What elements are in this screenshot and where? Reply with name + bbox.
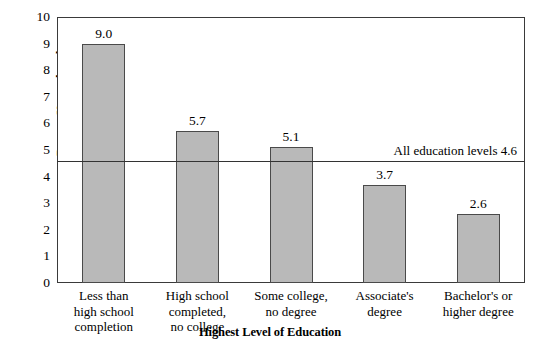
reference-line-label: All education levels 4.6 [255,144,517,157]
reference-line [57,161,525,162]
y-tick-label: 4 [28,170,50,184]
bar [270,147,313,283]
x-category-label: Bachelor's or higher degree [431,288,525,319]
y-tick-label: 10 [28,10,50,24]
bar [363,185,406,283]
bar-value-label: 3.7 [355,168,415,182]
bar-value-label: 2.6 [448,197,508,211]
y-tick-label: 3 [28,196,50,210]
bar [176,131,219,283]
x-category-label: Some college, no degree [244,288,338,319]
bar [457,214,500,283]
y-tick-label: 9 [28,37,50,51]
bar-value-label: 9.0 [74,27,134,41]
unemployment-by-education-bar-chart: Percent Unemployed 012345678910 9.05.75.… [0,0,540,345]
bar-value-label: 5.1 [261,130,321,144]
y-tick-label: 6 [28,117,50,131]
y-tick-label: 8 [28,63,50,77]
bar [82,44,125,283]
bar-value-label: 5.7 [167,114,227,128]
y-tick-label: 1 [28,250,50,264]
y-tick-label: 7 [28,90,50,104]
x-axis-title: Highest Level of Education [0,325,540,340]
x-category-label: Associate's degree [338,288,432,319]
y-tick-label: 2 [28,223,50,237]
y-tick-label: 0 [28,276,50,290]
y-tick-label: 5 [28,143,50,157]
